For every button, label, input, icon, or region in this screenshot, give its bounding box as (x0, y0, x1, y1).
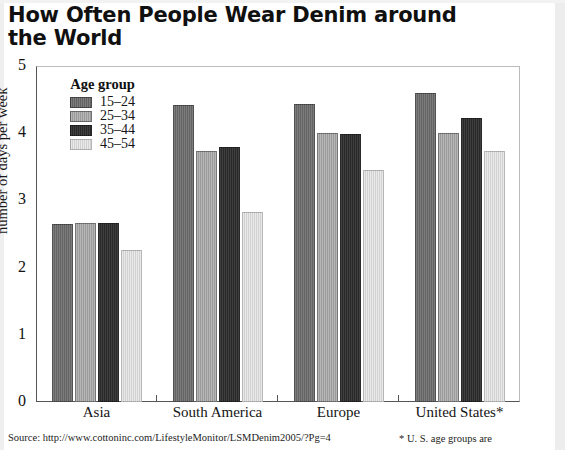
bar (415, 93, 436, 402)
bar (461, 118, 482, 402)
bar (363, 170, 384, 402)
bar-group-bars (157, 66, 278, 402)
legend-swatch (70, 97, 92, 108)
legend-item: 25–34 (70, 109, 135, 123)
y-tick-label: 2 (6, 258, 26, 276)
x-axis-label: South America (157, 404, 278, 421)
y-tick-label: 5 (6, 56, 26, 74)
legend-item: 15–24 (70, 95, 135, 109)
bar (196, 151, 217, 402)
bar (438, 133, 459, 402)
source-note: Source: http://www.cottoninc.com/Lifesty… (8, 432, 331, 443)
bar (219, 147, 240, 402)
bar-group (157, 66, 278, 402)
bar (173, 105, 194, 402)
bar-group (278, 66, 399, 402)
legend-label: 25–34 (100, 109, 135, 123)
legend-items: 15–2425–3435–4445–54 (70, 95, 135, 151)
bar (294, 104, 315, 402)
legend-label: 15–24 (100, 95, 135, 109)
bar (340, 134, 361, 402)
x-axis-label: Asia (36, 404, 157, 421)
legend-swatch (70, 125, 92, 136)
legend-item: 45–54 (70, 137, 135, 151)
x-axis-label: United States* (399, 404, 520, 421)
asterisk-note: * U. S. age groups are (399, 433, 492, 444)
bar (98, 223, 119, 402)
x-axis-label: Europe (278, 404, 399, 421)
bar-group-bars (278, 66, 399, 402)
bar (121, 250, 142, 402)
bar-group (399, 66, 520, 402)
legend-swatch (70, 139, 92, 150)
page-edge-right (555, 0, 565, 450)
bar (484, 151, 505, 402)
bar (52, 224, 73, 402)
legend-item: 35–44 (70, 123, 135, 137)
bar (242, 212, 263, 402)
chart-title: How Often People Wear Denim around the W… (8, 4, 468, 50)
x-axis-labels: AsiaSouth AmericaEuropeUnited States* (36, 404, 520, 421)
bar-group-bars (399, 66, 520, 402)
footer: Source: http://www.cottoninc.com/Lifesty… (0, 425, 565, 450)
legend-label: 45–54 (100, 137, 135, 151)
y-tick-label: 0 (6, 392, 26, 410)
legend-swatch (70, 111, 92, 122)
bar (75, 223, 96, 402)
y-tick-label: 1 (6, 325, 26, 343)
legend: Age group 15–2425–3435–4445–54 (64, 74, 143, 155)
legend-label: 35–44 (100, 123, 135, 137)
y-tick-label: 4 (6, 123, 26, 141)
legend-title: Age group (70, 76, 135, 93)
y-tick-label: 3 (6, 190, 26, 208)
bar (317, 133, 338, 402)
